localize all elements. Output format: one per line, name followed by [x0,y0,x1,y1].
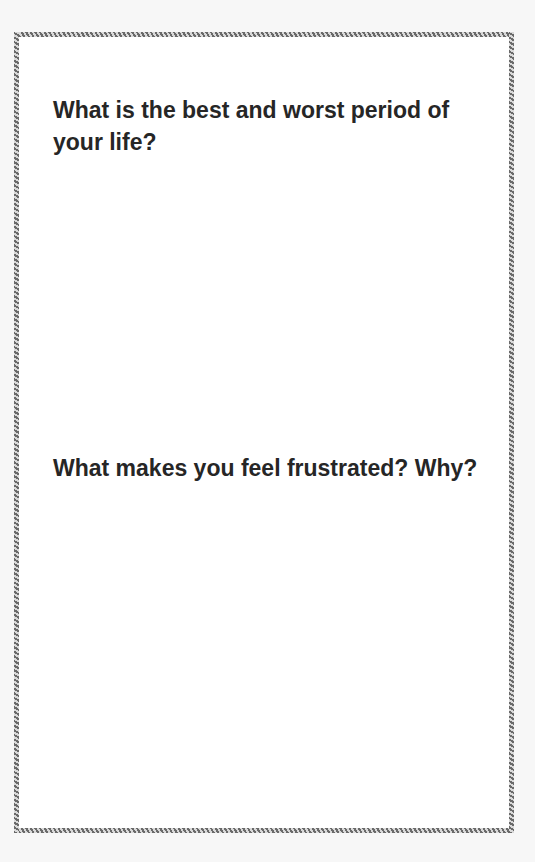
hatched-border-right [509,32,514,833]
question-1-heading: What is the best and worst period of you… [53,94,483,158]
answer-space-1 [53,166,473,436]
journal-page: What is the best and worst period of you… [14,32,514,833]
hatched-border-top [14,32,514,37]
question-2-heading: What makes you feel frustrated? Why? [53,452,483,484]
hatched-border-left [14,32,19,833]
hatched-border-bottom [14,828,514,833]
answer-space-2 [53,492,473,812]
